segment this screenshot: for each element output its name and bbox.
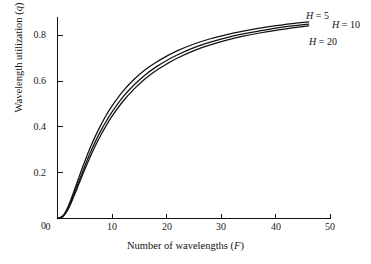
- x-tick-label-40: 40: [271, 222, 281, 232]
- y-axis-title-symbol: q: [13, 6, 24, 11]
- chart-figure: 0.8 0.6 0.4 0.2 0 0 10 20 30 40 50 Numbe…: [0, 0, 371, 264]
- y-tick-label-0.6: 0.6: [20, 76, 46, 86]
- curve-h-20: [58, 26, 309, 219]
- y-tick-label-0.4: 0.4: [20, 122, 46, 132]
- x-tick-label-50: 50: [325, 222, 335, 232]
- x-axis-title: Number of wavelengths (F): [0, 240, 371, 251]
- x-tick-label-20: 20: [162, 222, 172, 232]
- x-tick-label-30: 30: [216, 222, 226, 232]
- y-tick-label-0: 0: [20, 221, 46, 231]
- x-axis-title-tail: ): [240, 240, 244, 251]
- y-tick-marks: [58, 35, 63, 218]
- series-label-h-10: H = 10: [332, 20, 360, 30]
- curve-h-5: [58, 22, 309, 219]
- y-tick-label-0.8: 0.8: [20, 30, 46, 40]
- x-tick-marks: [58, 214, 331, 219]
- y-tick-label-0.2: 0.2: [20, 168, 46, 178]
- x-tick-label-10: 10: [107, 222, 117, 232]
- y-axis-title-text: Wavelength utilization (: [13, 11, 24, 112]
- y-axis-title-tail: ): [13, 3, 24, 7]
- curve-h-10: [58, 24, 309, 218]
- x-axis-title-text: Number of wavelengths (: [127, 240, 234, 251]
- series-label-h-5: H = 5: [306, 11, 329, 21]
- data-curves: [58, 22, 309, 219]
- y-axis-title: Wavelength utilization (q): [13, 0, 24, 138]
- series-label-h-20: H = 20: [309, 37, 337, 47]
- x-tick-label-0: 0: [46, 222, 51, 232]
